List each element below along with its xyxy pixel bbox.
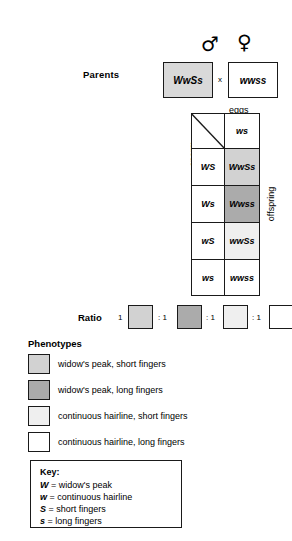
- sperm-gamete-cell-1: WS: [191, 148, 225, 186]
- key-allele-1: W: [40, 480, 49, 490]
- phenotype-swatch-2: [28, 380, 50, 400]
- sperm-gamete-cell-3: wS: [191, 222, 225, 260]
- key-allele-3: S: [40, 504, 46, 514]
- phenotype-label-1: widow's peak, short fingers: [58, 359, 166, 369]
- ratio-number-1: 1: [118, 313, 122, 322]
- ratio-swatch-2: [177, 305, 202, 329]
- key-meaning-3: short fingers: [56, 504, 106, 514]
- ratio-number-4: : 1: [252, 313, 261, 322]
- offspring-cell-4: wwss: [224, 259, 260, 296]
- parent-female-genotype-box: wwss: [228, 62, 278, 98]
- ratio-swatch-1: [128, 305, 153, 329]
- phenotype-swatch-4: [28, 432, 50, 452]
- key-line-1: W = widow's peak: [40, 479, 181, 491]
- offspring-cell-1: WwSs: [224, 148, 260, 186]
- key-title: Key:: [40, 467, 181, 477]
- key-equals-1: =: [51, 480, 56, 490]
- ratio-section: Ratio 1 : 1 : 1 : 1: [0, 303, 292, 333]
- offspring-axis-label: offspring: [266, 177, 278, 231]
- offspring-cell-3: wwSs: [224, 222, 260, 260]
- phenotype-label-4: continuous hairline, long fingers: [58, 437, 185, 447]
- ratio-swatch-3: [223, 305, 248, 329]
- phenotype-swatch-1: [28, 354, 50, 374]
- sperm-gamete-cell-4: ws: [191, 259, 225, 296]
- key-line-2: w = continuous hairline: [40, 491, 181, 503]
- punnett-corner-cell: [191, 113, 225, 149]
- key-meaning-4: long fingers: [55, 516, 102, 526]
- ratio-number-2: : 1: [158, 313, 167, 322]
- ratio-swatch-4: [269, 305, 292, 329]
- cross-symbol: x: [218, 75, 222, 84]
- female-symbol-icon: ♀: [237, 32, 252, 52]
- ratio-label: Ratio: [78, 312, 102, 323]
- key-equals-2: =: [50, 492, 55, 502]
- key-equals-4: =: [48, 516, 53, 526]
- phenotypes-heading: Phenotypes: [28, 338, 82, 349]
- phenotype-swatch-3: [28, 406, 50, 426]
- diagonal-divider-icon: [191, 113, 225, 149]
- parents-section: ♂ ♀ Parents WwSs x wwss: [0, 18, 292, 80]
- key-allele-2: w: [40, 492, 47, 502]
- key-line-4: s = long fingers: [40, 515, 181, 527]
- key-meaning-2: continuous hairline: [57, 492, 132, 502]
- egg-gamete-cell: ws: [224, 113, 260, 149]
- parent-male-genotype-box: WwSs: [163, 62, 213, 98]
- male-symbol-icon: ♂: [201, 34, 219, 54]
- key-line-3: S = short fingers: [40, 503, 181, 515]
- parents-label: Parents: [83, 69, 119, 80]
- ratio-number-3: : 1: [206, 313, 215, 322]
- offspring-cell-2: Wwss: [224, 185, 260, 223]
- key-meaning-1: widow's peak: [59, 480, 112, 490]
- key-allele-4: s: [40, 516, 45, 526]
- punnett-square: ws WS WwSs Ws Wwss wS wwSs ws wwss: [191, 113, 260, 296]
- key-box: Key: W = widow's peak w = continuous hai…: [30, 460, 182, 528]
- sperm-gamete-cell-2: Ws: [191, 185, 225, 223]
- key-equals-3: =: [49, 504, 54, 514]
- phenotype-label-2: widow's peak, long fingers: [58, 385, 163, 395]
- phenotype-label-3: continuous hairline, short fingers: [58, 411, 188, 421]
- phenotypes-legend: Phenotypes widow's peak, short fingers w…: [0, 338, 292, 444]
